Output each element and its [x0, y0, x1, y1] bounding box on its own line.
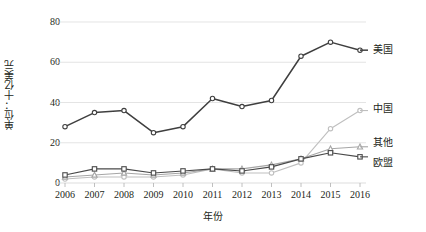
x-axis-tick-label: 2008	[114, 190, 134, 200]
data-point-square	[92, 167, 96, 171]
data-point-square	[210, 167, 214, 171]
x-axis-tick-label: 2010	[173, 190, 193, 200]
data-point-square	[328, 151, 332, 155]
data-point-circle	[240, 104, 244, 108]
legend-item-中国: 中国	[373, 104, 393, 114]
x-axis-tick-label: 2006	[55, 190, 75, 200]
x-axis-title: 年份	[0, 208, 426, 223]
data-point-square	[240, 169, 244, 173]
series-line	[63, 40, 368, 135]
data-point-circle	[181, 124, 185, 128]
data-point-square	[151, 171, 155, 175]
data-point-square	[269, 165, 273, 169]
data-point-circle	[328, 126, 332, 130]
series-line	[62, 144, 368, 179]
data-point-square	[299, 157, 303, 161]
data-point-circle	[63, 124, 67, 128]
series-line	[63, 108, 368, 181]
data-point-circle	[299, 54, 303, 58]
x-axis-tick-label: 2015	[321, 190, 341, 200]
x-axis-tick-label: 2011	[203, 190, 223, 200]
legend-item-美国: 美国	[373, 45, 393, 55]
data-point-square	[122, 167, 126, 171]
x-axis-tick-label: 2016	[350, 190, 370, 200]
legend-item-欧盟: 欧盟	[373, 158, 393, 168]
data-point-circle	[151, 130, 155, 134]
series-path	[65, 147, 360, 177]
data-point-circle	[92, 110, 96, 114]
data-point-square	[63, 173, 67, 177]
data-point-circle	[122, 108, 126, 112]
data-point-circle	[328, 40, 332, 44]
x-axis-tick-label: 2013	[262, 190, 282, 200]
x-axis-tick-label: 2012	[232, 190, 252, 200]
series-line	[63, 151, 368, 178]
data-point-circle	[210, 96, 214, 100]
data-point-circle	[269, 171, 273, 175]
line-chart: 单位：十亿美元 020406080 2006200720082009201020…	[0, 0, 426, 232]
x-axis-tick-label: 2007	[85, 190, 105, 200]
data-point-circle	[269, 98, 273, 102]
x-axis-tick-label: 2014	[291, 190, 311, 200]
legend-item-其他: 其他	[373, 138, 393, 148]
series-path	[65, 42, 360, 133]
data-point-square	[181, 169, 185, 173]
x-axis-tick-label: 2009	[144, 190, 164, 200]
data-point-triangle	[92, 172, 97, 177]
